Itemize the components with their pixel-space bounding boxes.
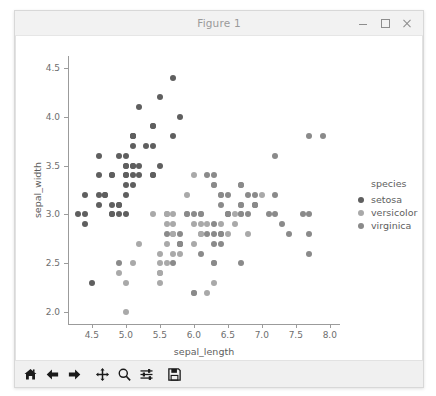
y-tick-label: 4.5 [46,63,60,73]
scatter-point-setosa [96,153,102,159]
y-tick [64,312,68,313]
x-axis-label: sepal_length [174,346,234,357]
x-tick-label: 7.0 [255,330,269,340]
x-tick-label: 8.0 [323,330,337,340]
maximize-button[interactable] [380,18,391,29]
legend-swatch-icon [358,223,364,229]
scatter-point-versicolor [123,280,129,286]
magnifier-icon [117,367,132,382]
x-tick [262,324,263,328]
scatter-point-setosa [150,172,156,178]
navigation-toolbar [15,360,423,387]
x-tick [194,324,195,328]
scatter-point-versicolor [211,280,217,286]
scatter-point-setosa [75,211,81,217]
x-tick [126,324,127,328]
y-axis-label: sepal_width [32,162,43,218]
scatter-point-virginica [306,133,312,139]
scatter-point-virginica [266,211,272,217]
scatter-point-versicolor [170,251,176,257]
y-tick-label: 2.0 [46,307,60,317]
legend-label: virginica [371,220,411,231]
scatter-point-versicolor [232,211,238,217]
legend-entry-virginica: virginica [358,219,417,232]
scatter-point-virginica [225,211,231,217]
zoom-button[interactable] [113,363,135,385]
y-tick [64,166,68,167]
y-tick-label: 4.0 [46,112,60,122]
scatter-point-setosa [150,143,156,149]
arrow-left-icon [45,367,60,382]
scatter-point-virginica [225,192,231,198]
maximize-icon [381,19,390,28]
scatter-point-virginica [191,290,197,296]
scatter-point-setosa [130,172,136,178]
subplots-button[interactable] [135,363,157,385]
scatter-point-setosa [96,172,102,178]
x-tick-label: 4.5 [85,330,99,340]
close-button[interactable] [402,18,413,29]
scatter-point-virginica [211,260,217,266]
pan-button[interactable] [91,363,113,385]
scatter-point-virginica [272,153,278,159]
scatter-point-setosa [123,163,129,169]
scatter-point-versicolor [164,241,170,247]
x-tick-label: 5.5 [153,330,167,340]
move-icon [95,367,110,382]
scatter-point-versicolor [204,290,210,296]
scatter-point-virginica [306,251,312,257]
scatter-point-setosa [123,172,129,178]
x-tick-label: 5.0 [119,330,133,340]
x-tick [160,324,161,328]
scatter-point-setosa [123,192,129,198]
forward-button[interactable] [63,363,85,385]
scatter-point-versicolor [191,172,197,178]
scatter-point-setosa [177,114,183,120]
scatter-point-virginica [177,231,183,237]
scatter-point-setosa [116,153,122,159]
y-tick [64,263,68,264]
figure-canvas[interactable]: 4.55.05.56.06.57.07.58.0 2.02.53.03.54.0… [15,36,423,360]
scatter-point-versicolor [245,231,251,237]
home-icon [23,367,38,382]
scatter-point-setosa [109,211,115,217]
minimize-button[interactable] [358,18,369,29]
scatter-point-versicolor [116,270,122,276]
save-button[interactable] [163,363,185,385]
x-tick-label: 6.5 [221,330,235,340]
back-button[interactable] [41,363,63,385]
axis-spine-bottom [68,324,340,325]
scatter-point-versicolor [164,221,170,227]
arrow-right-icon [67,367,82,382]
scatter-point-setosa [109,202,115,208]
matplotlib-figure: 4.55.05.56.06.57.07.58.0 2.02.53.03.54.0… [16,36,422,360]
y-tick-label: 3.0 [46,209,60,219]
scatter-point-versicolor [191,241,197,247]
floppy-disk-icon [167,367,182,382]
scatter-point-versicolor [198,221,204,227]
scatter-point-setosa [123,182,129,188]
scatter-point-versicolor [170,211,176,217]
scatter-point-virginica [218,231,224,237]
scatter-point-versicolor [170,231,176,237]
scatter-point-virginica [211,231,217,237]
sliders-icon [139,367,154,382]
y-tick [64,68,68,69]
scatter-point-setosa [123,153,129,159]
scatter-point-versicolor [218,221,224,227]
scatter-point-virginica [164,231,170,237]
scatter-point-virginica [218,241,224,247]
home-button[interactable] [19,363,41,385]
x-tick [296,324,297,328]
scatter-point-virginica [306,231,312,237]
y-tick [64,214,68,215]
window-titlebar: Figure 1 [15,11,423,36]
scatter-point-setosa [116,202,122,208]
scatter-point-virginica [116,260,122,266]
scatter-point-virginica [218,202,224,208]
scatter-point-virginica [204,172,210,178]
scatter-point-virginica [177,241,183,247]
x-tick [330,324,331,328]
legend: species setosaversicolorvirginica [358,178,417,232]
scatter-point-versicolor [191,221,197,227]
